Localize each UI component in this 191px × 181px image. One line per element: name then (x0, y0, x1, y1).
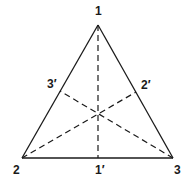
vertice-label-3: 3 (174, 163, 181, 177)
vertice-label-1: 1 (95, 4, 102, 18)
median-2-2p (22, 92, 136, 158)
median-3-3p (60, 91, 173, 158)
vertice-label-2: 2 (13, 163, 20, 177)
midpoint-label-2p: 2′ (141, 78, 151, 92)
midpoint-label-3p: 3′ (47, 77, 57, 91)
point-labels: 1231′2′3′ (13, 4, 181, 177)
triangle-medians-diagram: 1231′2′3′ (0, 0, 191, 181)
midpoint-label-1p: 1′ (95, 163, 105, 177)
side-3-1 (98, 25, 173, 158)
